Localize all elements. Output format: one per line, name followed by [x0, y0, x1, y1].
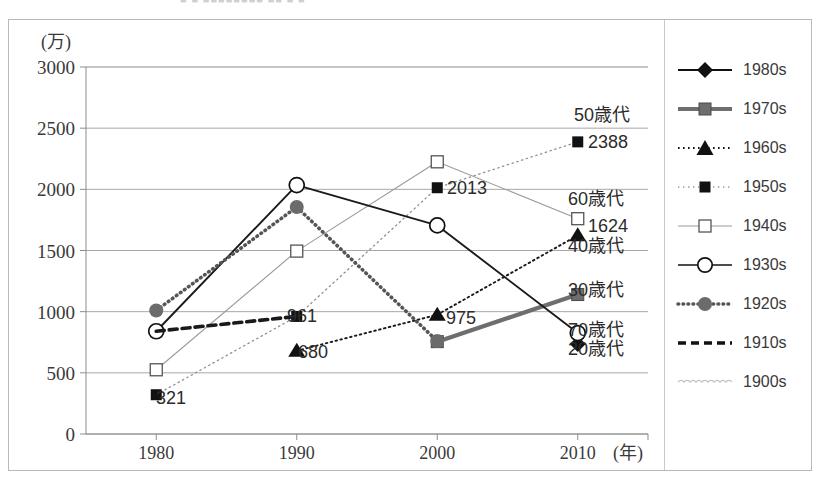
- legend-label: 1920s: [734, 295, 787, 313]
- marker-filled-circle: [149, 303, 163, 317]
- legend-item-1970s[interactable]: 1970s: [676, 89, 816, 128]
- legend-label: 1960s: [734, 139, 787, 157]
- chart-page: ■ ■ ■■■■■■■■ ■■ ■ ■ 30002500200015001000…: [0, 0, 822, 482]
- datapoint-1920s-2000: [430, 334, 444, 348]
- annotation-8: 2013: [447, 178, 487, 198]
- series-line-1930s: [156, 185, 578, 333]
- annotation-11: 680: [298, 342, 328, 362]
- x-unit-label: (年): [613, 443, 643, 464]
- datapoint-1930s-1990: [289, 178, 304, 193]
- chart-legend: 1980s1970s1960s1950s1940s1930s1920s1910s…: [676, 50, 816, 401]
- legend-label: 1970s: [734, 100, 787, 118]
- legend-item-1900s[interactable]: 1900s: [676, 362, 816, 401]
- annotation-4: 40歳代: [568, 236, 624, 256]
- annotation-5: 30歳代: [568, 280, 624, 300]
- datapoint-1950s-2010: [572, 136, 583, 147]
- legend-key-wavy-light: [676, 372, 734, 392]
- annotation-6: 70歳代: [568, 320, 624, 340]
- marker-filled-circle: [290, 200, 304, 214]
- datapoint-1920s-1990: [290, 200, 304, 214]
- datapoint-1920s-1980: [149, 303, 163, 317]
- legend-key-thin-open-square: [676, 216, 734, 236]
- legend-item-1920s[interactable]: 1920s: [676, 284, 816, 323]
- legend-swatch-dotted-triangle: [676, 138, 734, 158]
- legend-label: 1940s: [734, 217, 787, 235]
- marker-open-square: [291, 245, 303, 257]
- legend-key-dashed-bold: [676, 333, 734, 353]
- x-tick-label: 2000: [419, 443, 455, 463]
- legend-swatch-solid-open-circle: [676, 255, 734, 275]
- legend-item-1950s[interactable]: 1950s: [676, 167, 816, 206]
- marker-filled-circle: [430, 334, 444, 348]
- annotation-10: 961: [287, 306, 317, 326]
- series-line-1950s: [156, 142, 578, 395]
- y-tick-label: 3000: [37, 57, 75, 78]
- datapoint-1950s-2000: [432, 182, 443, 193]
- legend-key-dotted-filled-circle: [676, 294, 734, 314]
- marker-open-circle: [289, 178, 304, 193]
- x-tick-label: 1980: [138, 443, 174, 463]
- y-tick-label: 500: [47, 363, 76, 384]
- marker-open-square: [572, 213, 584, 225]
- marker-open-circle: [430, 218, 445, 233]
- legend-item-1930s[interactable]: 1930s: [676, 245, 816, 284]
- annotation-3: 1624: [588, 216, 628, 236]
- annotation-0: 50歳代: [574, 105, 630, 125]
- y-tick-label: 1000: [37, 302, 75, 323]
- legend-key-thick-grey-square: [676, 99, 734, 119]
- marker-square: [572, 136, 583, 147]
- legend-key-dotted-light-square: [676, 177, 734, 197]
- legend-label: 1900s: [734, 373, 787, 391]
- marker-square: [432, 182, 443, 193]
- y-unit-label: (万): [41, 32, 71, 53]
- marker-open-square: [431, 156, 443, 168]
- legend-label: 1950s: [734, 178, 787, 196]
- y-tick-label: 0: [66, 424, 76, 445]
- annotation-1: 2388: [588, 132, 628, 152]
- legend-swatch-thick-grey-square: [676, 99, 734, 119]
- legend-item-1910s[interactable]: 1910s: [676, 323, 816, 362]
- legend-label: 1930s: [734, 256, 787, 274]
- y-tick-label: 2500: [37, 118, 75, 139]
- series-line-1910s: [156, 316, 297, 331]
- annotation-9: 975: [446, 308, 476, 328]
- legend-label: 1910s: [734, 334, 787, 352]
- datapoint-1940s-1980: [150, 364, 162, 376]
- legend-swatch-thin-open-square: [676, 216, 734, 236]
- legend-item-1940s[interactable]: 1940s: [676, 206, 816, 245]
- legend-swatch-dotted-filled-circle: [676, 294, 734, 314]
- legend-item-1980s[interactable]: 1980s: [676, 50, 816, 89]
- datapoint-1960s-2000: [429, 307, 446, 321]
- legend-swatch-wavy-light: [676, 372, 734, 392]
- legend-label: 1980s: [734, 61, 787, 79]
- annotation-12: 321: [156, 388, 186, 408]
- y-tick-label: 2000: [37, 179, 75, 200]
- legend-key-solid-open-circle: [676, 255, 734, 275]
- y-tick-label: 1500: [37, 241, 75, 262]
- legend-key-solid-diamond: [676, 60, 734, 80]
- x-tick-label: 2010: [560, 443, 596, 463]
- annotation-2: 60歳代: [568, 189, 624, 209]
- x-tick-label: 1990: [279, 443, 315, 463]
- legend-item-1960s[interactable]: 1960s: [676, 128, 816, 167]
- datapoint-1940s-2000: [431, 156, 443, 168]
- series-line-1960s: [297, 235, 578, 350]
- marker-triangle: [429, 307, 446, 321]
- datapoint-1940s-1990: [291, 245, 303, 257]
- legend-swatch-dotted-light-square: [676, 177, 734, 197]
- legend-key-dotted-triangle: [676, 138, 734, 158]
- datapoint-1940s-2010: [572, 213, 584, 225]
- annotation-7: 20歳代: [568, 339, 624, 359]
- legend-swatch-solid-diamond: [676, 60, 734, 80]
- legend-swatch-dashed-bold: [676, 333, 734, 353]
- marker-open-square: [150, 364, 162, 376]
- datapoint-1930s-2000: [430, 218, 445, 233]
